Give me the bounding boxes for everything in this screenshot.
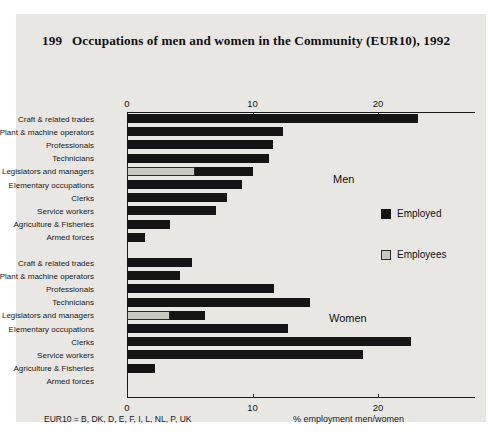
legend-item-employed: Employed: [381, 208, 441, 219]
bar-segment-employees: [127, 167, 195, 176]
bar-segment-employed: [127, 298, 310, 307]
category-label: Craft & related trades: [0, 259, 94, 268]
tick-mark-bottom: [253, 394, 254, 398]
page-title: 199Occupations of men and women in the C…: [42, 32, 462, 49]
bar-segment-employed: [127, 114, 418, 123]
tick-label-top: 20: [363, 98, 393, 109]
category-label: Armed forces: [0, 233, 94, 242]
bar-segment-employed: [127, 324, 288, 333]
category-label: Clerks: [0, 338, 94, 347]
tick-mark-bottom: [378, 394, 379, 398]
legend-swatch-employees-icon: [381, 250, 391, 260]
category-label: Legislators and managers: [0, 311, 94, 320]
legend-label-employees: Employees: [397, 249, 446, 260]
bar-segment-employed: [127, 233, 145, 242]
title-text: Occupations of men and women in the Comm…: [72, 33, 450, 48]
category-label: Agriculture & Fisheries: [0, 364, 94, 373]
tick-label-top: 0: [112, 98, 142, 109]
bar-segment-employed: [127, 140, 273, 149]
category-label: Legislators and managers: [0, 167, 94, 176]
category-label: Plant & machine operators: [0, 128, 94, 137]
bar-segment-employees: [127, 311, 170, 320]
bar-segment-employed: [127, 193, 227, 202]
category-label: Elementary occupations: [0, 181, 94, 190]
legend-swatch-employed-icon: [381, 209, 391, 219]
legend-item-employees: Employees: [381, 249, 446, 260]
bar-segment-employed: [127, 271, 180, 280]
legend-label-employed: Employed: [397, 208, 441, 219]
tick-label-bottom: 20: [363, 402, 393, 413]
group-label-women: Women: [329, 312, 367, 324]
category-label: Craft & related trades: [0, 115, 94, 124]
bar-segment-employed: [127, 206, 216, 215]
bar-segment-employed: [127, 258, 192, 267]
tick-label-bottom: 0: [112, 402, 142, 413]
category-label: Agriculture & Fisheries: [0, 220, 94, 229]
footnote-eur10: EUR10 = B, DK, D, E, F, I, L, NL, P, UK: [44, 414, 191, 424]
category-label: Technicians: [0, 154, 94, 163]
bar-segment-employed: [127, 284, 274, 293]
title-number: 199: [42, 32, 72, 49]
category-label: Plant & machine operators: [0, 272, 94, 281]
category-label: Technicians: [0, 298, 94, 307]
category-label: Armed forces: [0, 377, 94, 386]
bar-segment-employed: [127, 364, 155, 373]
category-label: Professionals: [0, 285, 94, 294]
axis-caption: % employment men/women: [293, 414, 404, 424]
bar-segment-employed: [127, 127, 283, 136]
figure-panel: 199Occupations of men and women in the C…: [16, 14, 486, 422]
tick-label-bottom: 10: [238, 402, 268, 413]
bar-segment-employed: [127, 180, 242, 189]
tick-label-top: 10: [238, 98, 268, 109]
bar-segment-employed: [127, 377, 128, 386]
bar-segment-employed: [127, 220, 170, 229]
bar-segment-employed: [127, 154, 269, 163]
category-label: Elementary occupations: [0, 325, 94, 334]
category-label: Professionals: [0, 141, 94, 150]
group-label-men: Men: [333, 173, 354, 185]
category-label: Clerks: [0, 194, 94, 203]
bar-segment-employed: [127, 337, 411, 346]
category-label: Service workers: [0, 351, 94, 360]
bar-segment-employed: [127, 350, 363, 359]
category-label: Service workers: [0, 207, 94, 216]
